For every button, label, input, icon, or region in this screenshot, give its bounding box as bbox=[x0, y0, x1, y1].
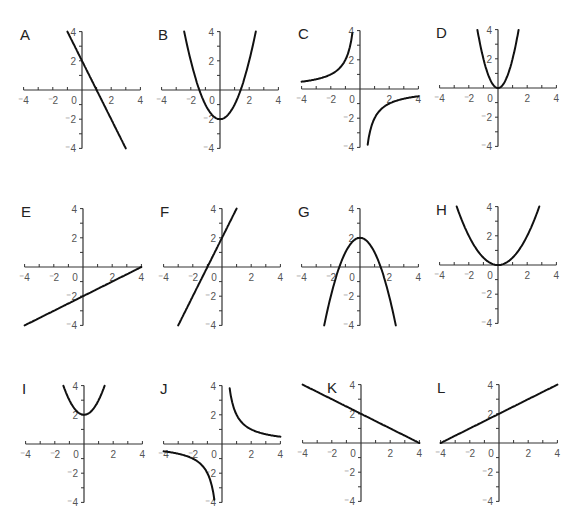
graph-panel-k: ⁻4⁻202442⁻2⁻4K bbox=[297, 379, 422, 507]
panel-label: K bbox=[327, 379, 337, 396]
x-tick-label: 2 bbox=[525, 448, 531, 459]
x-tick-label: 0 bbox=[350, 448, 356, 459]
y-tick-label: ⁻2 bbox=[481, 289, 492, 300]
x-tick-label: 2 bbox=[246, 95, 252, 106]
x-tick-label: 4 bbox=[417, 448, 423, 459]
y-tick-label: ⁻4 bbox=[66, 320, 77, 331]
y-tick-label: ⁻2 bbox=[65, 114, 76, 125]
x-tick-label: ⁻2 bbox=[48, 95, 59, 106]
graph-grid: ⁻4⁻202442⁻2⁻4A⁻4⁻202442⁻2⁻4B⁻4⁻202442⁻2⁻… bbox=[0, 0, 579, 531]
graph-panel-e: ⁻4⁻202442⁻2⁻4E bbox=[19, 203, 144, 331]
x-tick-label: 4 bbox=[554, 93, 560, 104]
panel-label: L bbox=[437, 379, 445, 396]
y-tick-label: ⁻4 bbox=[482, 496, 493, 507]
x-tick-label: ⁻2 bbox=[50, 449, 61, 460]
x-tick-label: 0 bbox=[488, 448, 494, 459]
x-tick-label: 2 bbox=[387, 448, 393, 459]
panel-label: D bbox=[436, 24, 447, 41]
y-tick-label: 2 bbox=[208, 56, 214, 67]
x-tick-label: 4 bbox=[278, 449, 284, 460]
x-tick-label: 2 bbox=[248, 449, 254, 460]
x-tick-label: 4 bbox=[138, 95, 144, 106]
panel-label: C bbox=[298, 25, 309, 42]
x-tick-label: 0 bbox=[349, 272, 355, 283]
panel-label: J bbox=[160, 380, 168, 397]
x-tick-label: 4 bbox=[555, 448, 561, 459]
x-tick-label: 0 bbox=[211, 449, 217, 460]
x-tick-label: 4 bbox=[140, 449, 146, 460]
x-tick-label: 0 bbox=[73, 449, 79, 460]
x-tick-label: ⁻2 bbox=[465, 448, 476, 459]
panel-label: I bbox=[22, 380, 26, 397]
y-tick-label: 2 bbox=[486, 231, 492, 242]
x-tick-label: 4 bbox=[554, 270, 560, 281]
panel-label: F bbox=[160, 203, 169, 220]
y-tick-label: ⁻2 bbox=[343, 113, 354, 124]
y-tick-label: 2 bbox=[210, 233, 216, 244]
x-tick-label: ⁻4 bbox=[434, 93, 445, 104]
y-tick-label: 4 bbox=[208, 27, 214, 38]
function-curve bbox=[230, 388, 281, 436]
y-tick-label: 4 bbox=[348, 204, 354, 215]
panel-label: A bbox=[20, 26, 30, 43]
x-tick-label: ⁻2 bbox=[49, 272, 60, 283]
x-tick-label: ⁻2 bbox=[326, 94, 337, 105]
y-tick-label: ⁻4 bbox=[343, 320, 354, 331]
y-tick-label: ⁻2 bbox=[481, 112, 492, 123]
x-tick-label: ⁻4 bbox=[297, 448, 308, 459]
y-tick-label: 2 bbox=[210, 410, 216, 421]
x-tick-label: ⁻4 bbox=[296, 94, 307, 105]
y-tick-label: 4 bbox=[71, 204, 77, 215]
x-tick-label: 2 bbox=[108, 95, 114, 106]
graph-panel-c: ⁻4⁻202442⁻2⁻4C bbox=[296, 25, 421, 153]
y-tick-label: 4 bbox=[210, 204, 216, 215]
panel-label: H bbox=[436, 201, 447, 218]
x-tick-label: ⁻4 bbox=[158, 272, 169, 283]
y-tick-label: 4 bbox=[349, 380, 355, 391]
graph-panel-f: ⁻4⁻202442⁻2⁻4F bbox=[158, 203, 283, 331]
y-tick-label: 4 bbox=[210, 381, 216, 392]
y-tick-label: 4 bbox=[486, 25, 492, 36]
x-tick-label: 2 bbox=[248, 272, 254, 283]
y-tick-label: ⁻4 bbox=[67, 497, 78, 508]
y-tick-label: ⁻4 bbox=[65, 143, 76, 154]
x-tick-label: ⁻4 bbox=[296, 272, 307, 283]
x-tick-label: ⁻4 bbox=[20, 449, 31, 460]
y-tick-label: 4 bbox=[486, 202, 492, 213]
x-tick-label: 2 bbox=[110, 449, 116, 460]
panel-label: B bbox=[158, 26, 168, 43]
y-tick-label: ⁻4 bbox=[203, 143, 214, 154]
graph-panel-a: ⁻4⁻202442⁻2⁻4A bbox=[18, 26, 143, 154]
x-tick-label: 4 bbox=[278, 272, 284, 283]
x-tick-label: ⁻2 bbox=[327, 448, 338, 459]
x-tick-label: 2 bbox=[386, 272, 392, 283]
x-tick-label: ⁻4 bbox=[18, 95, 29, 106]
x-tick-label: ⁻2 bbox=[464, 93, 475, 104]
x-tick-label: 2 bbox=[524, 93, 530, 104]
graph-panel-b: ⁻4⁻202442⁻2⁻4B bbox=[156, 26, 281, 154]
x-tick-label: 4 bbox=[139, 272, 145, 283]
x-tick-label: ⁻4 bbox=[435, 448, 446, 459]
graph-panel-l: ⁻4⁻202442⁻2⁻4L bbox=[435, 379, 560, 507]
function-curve bbox=[368, 96, 419, 144]
y-tick-label: ⁻4 bbox=[343, 142, 354, 153]
y-tick-label: ⁻2 bbox=[67, 468, 78, 479]
y-tick-label: ⁻2 bbox=[482, 467, 493, 478]
x-tick-label: ⁻4 bbox=[156, 95, 167, 106]
x-tick-label: ⁻4 bbox=[434, 270, 445, 281]
y-tick-label: 4 bbox=[487, 380, 493, 391]
x-tick-label: ⁻2 bbox=[464, 270, 475, 281]
graph-panel-i: ⁻4⁻202442⁻2⁻4I bbox=[20, 380, 145, 508]
graph-panel-g: ⁻4⁻202442⁻2⁻4G bbox=[296, 203, 421, 331]
x-tick-label: 0 bbox=[487, 270, 493, 281]
y-tick-label: 2 bbox=[348, 55, 354, 66]
y-tick-label: ⁻2 bbox=[344, 467, 355, 478]
y-tick-label: 4 bbox=[72, 381, 78, 392]
graph-panel-j: ⁻4⁻202442⁻2⁻4J bbox=[158, 380, 283, 508]
x-tick-label: 0 bbox=[349, 94, 355, 105]
panel-label: E bbox=[21, 203, 31, 220]
x-tick-label: 0 bbox=[487, 93, 493, 104]
y-tick-label: 2 bbox=[70, 56, 76, 67]
x-tick-label: ⁻2 bbox=[188, 272, 199, 283]
y-tick-label: ⁻4 bbox=[481, 318, 492, 329]
